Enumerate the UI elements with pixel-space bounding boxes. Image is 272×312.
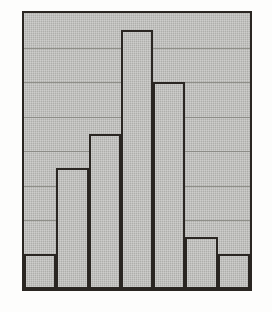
histogram-bar (218, 254, 250, 289)
bar-texture (91, 136, 119, 289)
bar-texture (26, 256, 54, 289)
bar-texture (220, 256, 248, 289)
histogram-bar (121, 30, 153, 289)
histogram-bar (56, 168, 88, 289)
bar-texture (123, 32, 151, 289)
bars-group (24, 13, 250, 289)
bar-texture (187, 239, 215, 289)
histogram-bar (153, 82, 185, 289)
histogram-bar (24, 254, 56, 289)
plot-frame (22, 11, 252, 291)
histogram-bar (185, 237, 217, 289)
histogram-figure (0, 0, 272, 312)
bar-texture (58, 170, 86, 289)
histogram-bar (89, 134, 121, 289)
axis-baseline (24, 287, 250, 289)
bar-texture (155, 84, 183, 289)
